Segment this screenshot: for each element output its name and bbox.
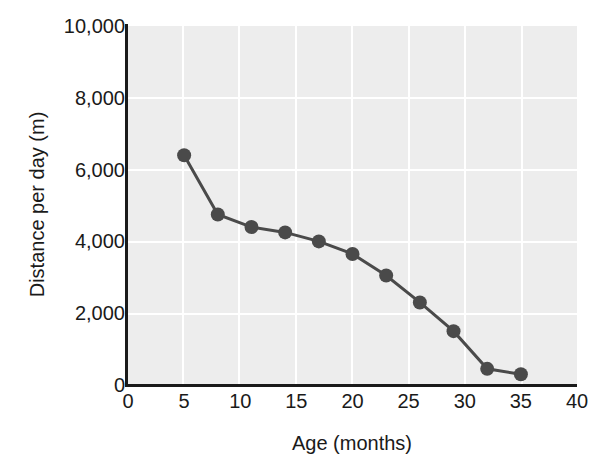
series-polyline (184, 155, 521, 374)
x-tick-label: 0 (98, 390, 158, 413)
x-tick-label: 5 (154, 390, 214, 413)
data-point-marker (514, 367, 528, 381)
data-point-marker (480, 362, 494, 376)
x-tick-label: 35 (491, 390, 551, 413)
data-point-marker (379, 269, 393, 283)
plot-area (128, 26, 577, 385)
x-tick-label: 40 (547, 390, 596, 413)
data-point-marker (278, 225, 292, 239)
x-tick-label: 25 (379, 390, 439, 413)
data-point-marker (447, 324, 461, 338)
data-point-marker (177, 148, 191, 162)
x-tick-label: 20 (323, 390, 383, 413)
x-tick-label: 30 (435, 390, 495, 413)
x-tick-label: 10 (210, 390, 270, 413)
data-series-line (128, 26, 577, 385)
data-point-marker (413, 295, 427, 309)
y-axis-line (125, 24, 128, 387)
data-point-marker (312, 234, 326, 248)
chart-figure: 02,0004,0006,0008,00010,000 051015202530… (0, 0, 596, 473)
data-point-marker (211, 207, 225, 221)
x-axis-label: Age (months) (127, 432, 577, 455)
data-point-marker (244, 220, 258, 234)
y-axis-label: Distance per day (m) (26, 5, 49, 405)
x-axis-line (125, 384, 577, 387)
data-point-marker (346, 247, 360, 261)
x-tick-label: 15 (266, 390, 326, 413)
